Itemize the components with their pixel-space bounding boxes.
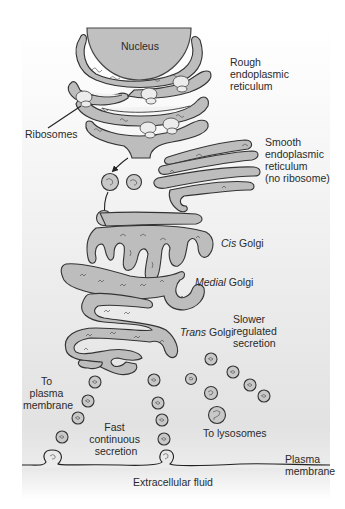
nucleus-label: Nucleus <box>121 40 159 52</box>
medial-golgi-label: Medial Golgi <box>195 276 253 288</box>
ribosomes-label: Ribosomes <box>25 128 78 140</box>
secretory-pathway-diagram: Nucleus <box>0 0 345 509</box>
trans-golgi-label: Trans Golgi <box>180 326 234 338</box>
to-lysosomes-label: To lysosomes <box>203 427 267 439</box>
cis-golgi-label: Cis Golgi <box>221 237 264 249</box>
extracellular-fluid-label: Extracellular fluid <box>133 476 213 488</box>
